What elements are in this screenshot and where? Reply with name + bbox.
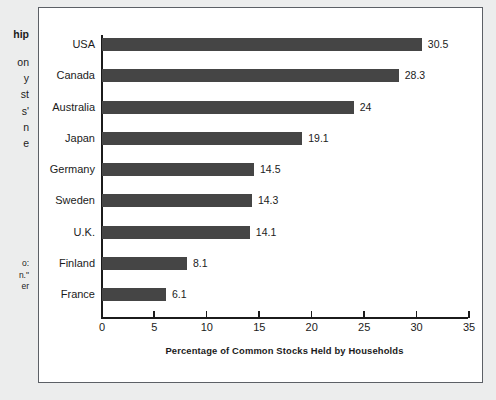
- bar: [102, 69, 399, 82]
- bar-value-label: 8.1: [193, 257, 208, 270]
- sidebar-source-line: er: [0, 281, 29, 293]
- bar-category-label: Japan: [65, 132, 95, 145]
- bar-category-label: USA: [72, 38, 95, 51]
- bar-category-label: France: [61, 288, 95, 301]
- bar-rows: USA30.5Canada28.3Australia24Japan19.1Ger…: [39, 38, 482, 320]
- chart-frame: USA30.5Canada28.3Australia24Japan19.1Ger…: [38, 7, 483, 383]
- sidebar-text-block: hip on y st s' n e: [0, 0, 29, 151]
- bar-value-label: 28.3: [405, 69, 425, 82]
- sidebar-source-block: o: n." er: [0, 258, 29, 293]
- bar-category-label: Germany: [50, 163, 95, 176]
- sidebar-source-line: o:: [0, 258, 29, 270]
- x-axis-tick: [363, 311, 365, 318]
- bar: [102, 38, 422, 51]
- x-axis-tick-label: 15: [253, 321, 265, 333]
- bar-value-label: 14.1: [256, 226, 276, 239]
- bar-row: Australia24: [39, 101, 482, 132]
- sidebar-body-line: st: [0, 86, 29, 102]
- bar-row: Canada28.3: [39, 69, 482, 100]
- x-axis-title: Percentage of Common Stocks Held by Hous…: [101, 345, 468, 356]
- bar-row: Germany14.5: [39, 163, 482, 194]
- x-axis-tick-label: 5: [151, 321, 157, 333]
- x-axis-tick: [206, 311, 208, 318]
- x-axis-tick-label: 35: [463, 321, 475, 333]
- bar-category-label: Canada: [56, 69, 95, 82]
- bar-category-label: Australia: [52, 101, 95, 114]
- sidebar-body-line: n: [0, 119, 29, 135]
- bar-row: USA30.5: [39, 38, 482, 69]
- bar-row: Japan19.1: [39, 132, 482, 163]
- x-axis-tick-label: 30: [410, 321, 422, 333]
- bar: [102, 132, 302, 145]
- x-axis-tick: [311, 311, 313, 318]
- bar-chart: USA30.5Canada28.3Australia24Japan19.1Ger…: [39, 8, 482, 382]
- bar-category-label: Sweden: [55, 194, 95, 207]
- bar: [102, 163, 254, 176]
- bar-row: Sweden14.3: [39, 194, 482, 225]
- x-axis-tick: [101, 311, 103, 318]
- bar-row: Finland8.1: [39, 257, 482, 288]
- bar-category-label: U.K.: [74, 226, 95, 239]
- bar-value-label: 14.3: [258, 194, 278, 207]
- x-axis-tick-label: 10: [201, 321, 213, 333]
- sidebar-body-line: s': [0, 103, 29, 119]
- bar: [102, 257, 187, 270]
- sidebar-body-line: on: [0, 54, 29, 70]
- bar-category-label: Finland: [59, 257, 95, 270]
- sidebar-body-line: e: [0, 135, 29, 151]
- x-axis-tick-label: 20: [306, 321, 318, 333]
- bar-value-label: 19.1: [308, 132, 328, 145]
- bar: [102, 288, 166, 301]
- x-axis-tick: [468, 311, 470, 318]
- bar: [102, 194, 252, 207]
- bar-value-label: 30.5: [428, 38, 448, 51]
- page-sidebar-text: hip on y st s' n e o: n." er: [0, 0, 32, 400]
- bar-row: U.K.14.1: [39, 226, 482, 257]
- x-axis-tick: [153, 311, 155, 318]
- bar-value-label: 24: [360, 101, 372, 114]
- bar-value-label: 14.5: [260, 163, 280, 176]
- sidebar-body-line: y: [0, 70, 29, 86]
- sidebar-source-line: n.": [0, 270, 29, 282]
- x-axis-tick: [416, 311, 418, 318]
- x-axis-tick: [258, 311, 260, 318]
- bar: [102, 226, 250, 239]
- x-axis-tick-label: 25: [358, 321, 370, 333]
- x-axis-tick-label: 0: [99, 321, 105, 333]
- bar: [102, 101, 354, 114]
- sidebar-heading: hip: [0, 28, 29, 40]
- x-axis-line: [101, 317, 468, 319]
- bar-value-label: 6.1: [172, 288, 187, 301]
